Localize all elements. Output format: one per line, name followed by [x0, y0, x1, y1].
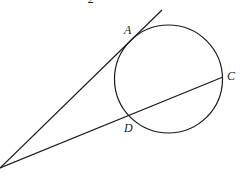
tangent-line [0, 10, 162, 168]
point-label-d: D [123, 121, 133, 135]
point-label-c: C [227, 69, 236, 83]
top-partial-label: 2 [88, 0, 94, 6]
point-label-a: A [123, 23, 132, 37]
geometry-diagram: 2 A C D [0, 0, 246, 185]
secant-line [0, 77, 223, 168]
